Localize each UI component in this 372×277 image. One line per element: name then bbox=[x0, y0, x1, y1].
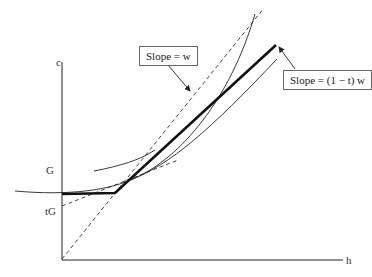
diagram-canvas bbox=[0, 0, 372, 277]
dashed-line-from-tg bbox=[62, 160, 178, 206]
arrow-slope-w bbox=[168, 65, 190, 91]
y-axis-label: c bbox=[56, 57, 61, 68]
budget-constraint bbox=[62, 45, 276, 194]
slope-net-annotation: Slope = (1 − t) w bbox=[283, 70, 372, 90]
g-tick-label: G bbox=[46, 165, 54, 176]
tg-tick-label: tG bbox=[45, 206, 56, 217]
slope-w-annotation: Slope = w bbox=[139, 46, 198, 66]
arrow-slope-net bbox=[279, 47, 295, 69]
x-axis-label: h bbox=[346, 255, 352, 266]
indifference-curve-upper bbox=[94, 150, 155, 171]
